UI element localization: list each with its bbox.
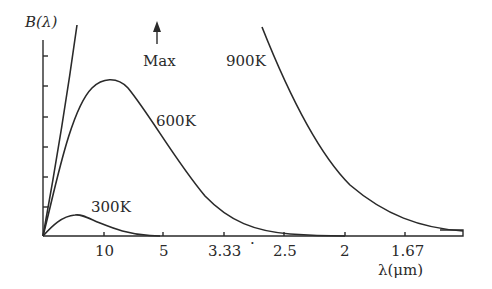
curve-600k (43, 80, 345, 236)
blackbody-radiation-chart: B(λ) λ(μm) Max 900K 600K 300K 10 5 3.33 … (0, 0, 492, 289)
stray-dot: · (250, 234, 255, 252)
curve-300k (43, 215, 160, 236)
x-tick-1-67: 1.67 (391, 242, 424, 260)
y-ticks (43, 56, 48, 207)
x-tick-5: 5 (159, 242, 169, 260)
label-900k: 900K (226, 52, 267, 70)
x-tick-2-5: 2.5 (273, 242, 297, 260)
arrow-up-icon (153, 21, 161, 32)
x-tick-10: 10 (95, 242, 114, 260)
y-axis-label: B(λ) (24, 13, 57, 31)
label-300k: 300K (91, 198, 132, 216)
max-annotation: Max (143, 21, 176, 70)
x-tick-2: 2 (340, 242, 350, 260)
label-600k: 600K (156, 112, 197, 130)
max-label: Max (143, 52, 176, 70)
curve-900k-tail (262, 27, 463, 231)
x-tick-3-33: 3.33 (208, 242, 241, 260)
curve-900k-rising (43, 25, 77, 236)
x-axis-label: λ(μm) (378, 261, 423, 279)
